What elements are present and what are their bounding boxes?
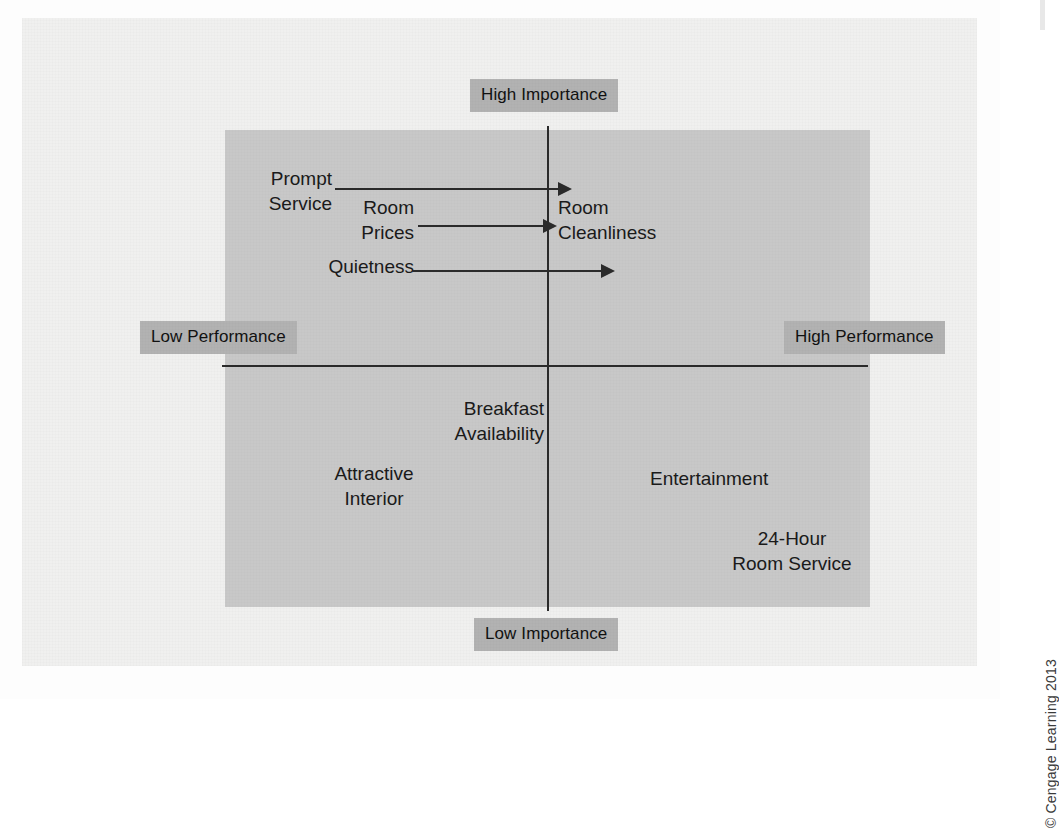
attribute-room-service-line2: Room Service bbox=[712, 551, 872, 576]
attribute-breakfast-availability: Breakfast Availability bbox=[424, 396, 544, 446]
axis-label-low-importance: Low Importance bbox=[474, 618, 618, 651]
page-right-margin bbox=[1000, 0, 1045, 699]
performance-axis bbox=[222, 365, 868, 367]
importance-axis bbox=[547, 126, 549, 611]
attribute-quietness: Quietness bbox=[290, 254, 414, 279]
arrow-quietness-line bbox=[413, 270, 604, 272]
attribute-24-hour-room-service: 24-Hour Room Service bbox=[712, 526, 872, 576]
attribute-attractive-line2: Interior bbox=[314, 486, 434, 511]
axis-label-low-performance: Low Performance bbox=[140, 321, 297, 354]
attribute-room-cleanliness-line2: Cleanliness bbox=[558, 220, 718, 245]
arrow-prompt-service-line bbox=[335, 188, 561, 190]
arrow-quietness-head-icon bbox=[601, 264, 615, 278]
arrow-room-prices-line bbox=[418, 225, 546, 227]
attribute-attractive-line1: Attractive bbox=[314, 461, 434, 486]
attribute-room-cleanliness-line1: Room bbox=[558, 195, 718, 220]
attribute-room-cleanliness: Room Cleanliness bbox=[558, 195, 718, 245]
attribute-attractive-interior: Attractive Interior bbox=[314, 461, 434, 511]
attribute-room-prices: Room Prices bbox=[292, 195, 414, 245]
attribute-room-prices-line1: Room bbox=[292, 195, 414, 220]
attribute-room-service-line1: 24-Hour bbox=[712, 526, 872, 551]
attribute-entertainment: Entertainment bbox=[650, 466, 830, 491]
axis-label-high-importance: High Importance bbox=[470, 79, 618, 112]
arrow-prompt-service-head-icon bbox=[558, 182, 572, 196]
attribute-prompt-service-line1: Prompt bbox=[222, 166, 332, 191]
copyright-notice: © Cengage Learning 2013 bbox=[1043, 659, 1059, 828]
arrow-room-prices-head-icon bbox=[543, 219, 557, 233]
figure-page-panel: High Importance Low Importance Low Perfo… bbox=[22, 18, 977, 666]
attribute-breakfast-line1: Breakfast bbox=[424, 396, 544, 421]
attribute-room-prices-line2: Prices bbox=[292, 220, 414, 245]
page-edge-mark bbox=[1040, 0, 1045, 30]
attribute-breakfast-line2: Availability bbox=[424, 421, 544, 446]
axis-label-high-performance: High Performance bbox=[784, 321, 945, 354]
